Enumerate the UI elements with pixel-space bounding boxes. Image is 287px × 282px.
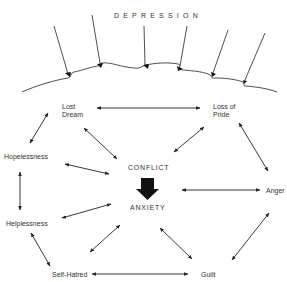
arrow-lossofpride-anger [239,123,268,171]
node-anger: Anger [266,187,285,195]
heavy-down-arrow-icon [136,178,159,200]
arrow-helplessness-selfhatred [31,233,50,266]
node-conflict: CONFLICT [128,164,169,172]
arrow-anxiety-helplessness [62,204,111,218]
arrow-lostdream-conflict [84,128,117,159]
node-lost-dream: Lost Dream [62,103,83,119]
arrow-lossofpride-conflict [174,127,204,152]
depression-curtain-icon [22,15,277,92]
arrow-guilt-anger [232,213,269,260]
node-loss-of-pride: Loss of Pride [213,103,236,119]
diagram-title: DEPRESSION [114,12,202,19]
arrow-anxiety-selfhatred [90,225,120,252]
node-helplessness: Helplessness [6,220,48,228]
node-self-hatred: Self-Hatred [52,271,87,279]
node-anxiety: ANXIETY [130,204,166,212]
arrow-hopelessness-conflict [65,164,109,174]
arrow-lostdream-hopelessness [30,113,48,143]
node-guilt: Guilt [201,271,215,279]
arrow-anxiety-guilt [160,228,192,259]
diagram-canvas [0,0,287,282]
curtain-hooks [65,63,247,84]
node-hopelessness: Hopelessness [4,153,48,161]
